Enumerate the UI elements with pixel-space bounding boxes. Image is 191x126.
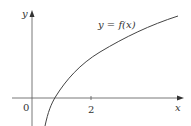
function-curve: [45, 16, 178, 126]
x-axis-label: x: [175, 102, 181, 113]
x-axis-arrow-icon: [177, 96, 184, 101]
function-label: y = f(x): [97, 19, 136, 30]
y-axis-label: y: [21, 8, 28, 19]
x-tick-label-2: 2: [88, 104, 94, 115]
graph: y x 0 2 y = f(x): [0, 0, 191, 126]
y-axis-arrow-icon: [30, 10, 35, 17]
origin-label: 0: [23, 102, 29, 113]
